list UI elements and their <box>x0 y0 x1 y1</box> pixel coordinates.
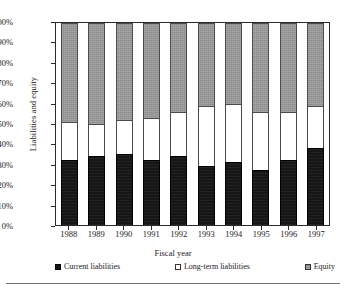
y-axis-title: Liabilities and equity <box>28 34 38 194</box>
bar-segment-long-term-liabilities <box>116 120 133 154</box>
x-axis-tick-labels: 1988198919901991199219931994199519961997 <box>55 229 330 243</box>
bar-segment-long-term-liabilities <box>225 104 242 163</box>
bar-column <box>252 23 269 225</box>
bar-segment-current-liabilities <box>225 162 242 225</box>
bar-column <box>116 23 133 225</box>
plot-area <box>55 22 330 226</box>
bar-column <box>198 23 215 225</box>
y-axis-tick-label: 60% <box>0 100 13 108</box>
x-axis-tick-label: 1996 <box>280 229 297 239</box>
bar-segment-current-liabilities <box>198 166 215 225</box>
bar-segment-equity <box>225 23 242 104</box>
bar-segment-current-liabilities <box>170 156 187 225</box>
bar-segment-equity <box>252 23 269 112</box>
x-axis-tick-label: 1995 <box>253 229 270 239</box>
bar-segment-long-term-liabilities <box>143 118 160 160</box>
bar-segment-long-term-liabilities <box>252 112 269 171</box>
x-axis-tick-label: 1994 <box>225 229 242 239</box>
y-axis-tick-label: 100% <box>0 18 13 26</box>
bar-segment-current-liabilities <box>61 160 78 225</box>
x-axis-title: Fiscal year <box>0 248 346 258</box>
x-axis-tick-label: 1988 <box>60 229 77 239</box>
bar-segment-long-term-liabilities <box>198 106 215 167</box>
y-axis-tick-label: 40% <box>0 140 13 148</box>
bar-segment-current-liabilities <box>116 154 133 225</box>
bar-segment-current-liabilities <box>307 148 324 225</box>
x-axis-tick-label: 1990 <box>115 229 132 239</box>
bar-column <box>88 23 105 225</box>
footer-divider <box>6 283 340 284</box>
bar-segment-current-liabilities <box>252 170 269 225</box>
bar-column <box>61 23 78 225</box>
bar-segment-long-term-liabilities <box>307 106 324 148</box>
bar-segment-long-term-liabilities <box>61 122 78 160</box>
bar-segment-current-liabilities <box>88 156 105 225</box>
bar-segment-equity <box>143 23 160 118</box>
bar-column <box>307 23 324 225</box>
black-square-icon <box>55 264 61 270</box>
bar-segment-long-term-liabilities <box>280 112 297 160</box>
bar-series-group <box>56 23 329 225</box>
x-axis-tick-label: 1989 <box>88 229 105 239</box>
bar-segment-long-term-liabilities <box>170 112 187 156</box>
legend-item-label: Current liabilities <box>64 262 120 271</box>
x-axis-tick-label: 1997 <box>308 229 325 239</box>
legend-item-label: Long-term liabilities <box>184 262 250 271</box>
bar-segment-equity <box>170 23 187 112</box>
gray-square-icon <box>305 264 311 270</box>
chart-figure: Liabilities and equity 100%90%80%70%60%5… <box>0 0 346 294</box>
bar-segment-equity <box>280 23 297 112</box>
legend-item: Current liabilities <box>55 262 120 271</box>
white-square-icon <box>175 264 181 270</box>
bar-column <box>280 23 297 225</box>
bar-segment-equity <box>307 23 324 106</box>
x-axis-tick-label: 1991 <box>143 229 160 239</box>
y-axis-tick-label: 50% <box>0 120 13 128</box>
y-axis-tick-label: 80% <box>0 59 13 67</box>
bar-segment-equity <box>116 23 133 120</box>
y-axis-tick-label: 0% <box>0 222 13 230</box>
bar-column <box>170 23 187 225</box>
bar-segment-current-liabilities <box>143 160 160 225</box>
bar-segment-equity <box>198 23 215 106</box>
bar-column <box>225 23 242 225</box>
bar-column <box>143 23 160 225</box>
y-axis-tick-label: 70% <box>0 79 13 87</box>
y-axis-tick-label: 30% <box>0 161 13 169</box>
y-axis-tick-label: 10% <box>0 202 13 210</box>
legend-item-label: Equity <box>314 262 335 271</box>
bar-segment-equity <box>88 23 105 124</box>
x-axis-tick-label: 1993 <box>198 229 215 239</box>
y-axis-tick-label: 90% <box>0 38 13 46</box>
legend-item: Equity <box>305 262 335 271</box>
bar-segment-equity <box>61 23 78 122</box>
legend-item: Long-term liabilities <box>175 262 250 271</box>
bar-segment-current-liabilities <box>280 160 297 225</box>
x-axis-tick-label: 1992 <box>170 229 187 239</box>
chart-legend: Current liabilitiesLong-term liabilities… <box>55 262 335 271</box>
bar-segment-long-term-liabilities <box>88 124 105 156</box>
y-axis-tick-label: 20% <box>0 181 13 189</box>
